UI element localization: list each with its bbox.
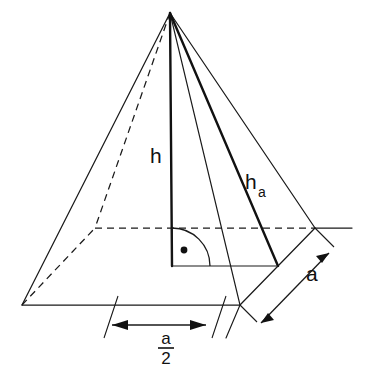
- label-half-edge-numerator: a: [161, 329, 171, 348]
- pyramid-diagram-svg: h h a a a 2: [0, 0, 368, 370]
- lateral-edge-front-right: [170, 13, 240, 305]
- right-angle-arc: [172, 228, 210, 266]
- label-slant-height: h: [245, 170, 257, 193]
- label-half-edge-denominator: 2: [161, 349, 170, 368]
- dimension-a-half-arrowhead-right: [190, 320, 206, 330]
- dimension-line-a: [261, 253, 329, 323]
- pyramid-figure: h h a a a 2: [0, 0, 368, 370]
- base-left-edge-hidden: [22, 228, 95, 305]
- slant-height-line: [170, 13, 278, 266]
- lateral-edge-front-left: [22, 13, 170, 305]
- projection-line-front-right: [226, 305, 240, 338]
- label-base-edge: a: [306, 262, 318, 285]
- extension-line-left: [104, 296, 118, 338]
- dimension-a-half-arrowhead-left: [112, 320, 128, 330]
- dimension-a-ext-top: [315, 228, 334, 247]
- dimension-a-arrowhead-top: [316, 253, 329, 263]
- dimension-a-ext-bottom: [240, 305, 257, 322]
- label-slant-height-subscript: a: [258, 184, 266, 200]
- lateral-edge-back-right: [170, 13, 315, 228]
- right-angle-dot: [181, 247, 188, 254]
- extension-line-right: [212, 296, 226, 338]
- label-height: h: [150, 144, 162, 167]
- lateral-edge-back-left-hidden: [95, 13, 170, 228]
- dimension-a-arrowhead-bottom: [261, 313, 274, 323]
